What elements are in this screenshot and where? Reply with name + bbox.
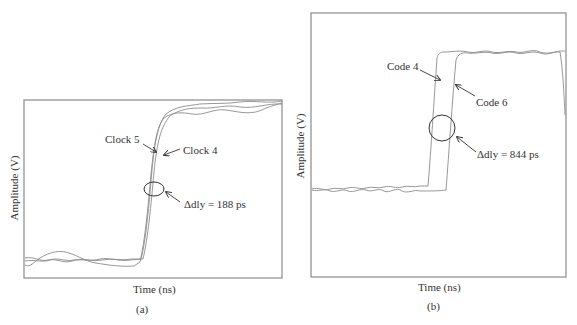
annotation-code-6: Code 6 bbox=[476, 96, 507, 108]
annotation-delay-b: Δdly = 844 ps bbox=[477, 148, 539, 160]
trace-clock-4 bbox=[25, 104, 282, 262]
arrow-code-6 bbox=[456, 85, 475, 96]
arrow-delay-b bbox=[457, 137, 476, 152]
arrow-clock-4 bbox=[164, 149, 180, 155]
trace-third bbox=[25, 103, 282, 266]
annotation-clock-5: Clock 5 bbox=[105, 133, 140, 145]
y-axis-label-b: Amplitude (V) bbox=[294, 106, 306, 186]
trace-code-4 bbox=[312, 51, 565, 190]
x-axis-label-b: Time (ns) bbox=[418, 281, 461, 293]
panel-caption-b: (b) bbox=[427, 300, 440, 312]
arrow-delay-a bbox=[166, 192, 180, 202]
delay-ellipse-a bbox=[144, 182, 164, 196]
figure-canvas bbox=[0, 0, 577, 325]
annotation-clock-4: Clock 4 bbox=[183, 144, 218, 156]
panel-caption-a: (a) bbox=[136, 303, 148, 315]
annotation-delay-a: Δdly = 188 ps bbox=[184, 198, 246, 210]
arrow-code-4 bbox=[420, 70, 440, 80]
panel-a-plot bbox=[24, 100, 282, 278]
annotation-code-4: Code 4 bbox=[387, 60, 418, 72]
delay-ellipse-b bbox=[429, 115, 455, 141]
x-axis-label-a: Time (ns) bbox=[133, 283, 176, 295]
panel-b-plot bbox=[311, 13, 566, 277]
trace-code-6 bbox=[312, 52, 565, 192]
y-axis-label-a: Amplitude (V) bbox=[8, 148, 20, 228]
